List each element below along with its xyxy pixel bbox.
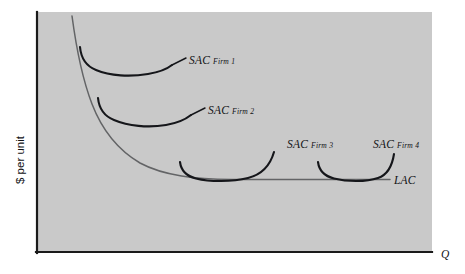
economics-cost-curve-figure: SACFirm 1 SACFirm 2 SACFirm 3 SACFirm 4 … [0,0,465,274]
x-axis-label: Q [441,248,450,260]
plot-area-background [36,12,432,253]
y-axis-label: $ per unit [14,135,26,184]
lac-label: LAC [393,174,416,186]
